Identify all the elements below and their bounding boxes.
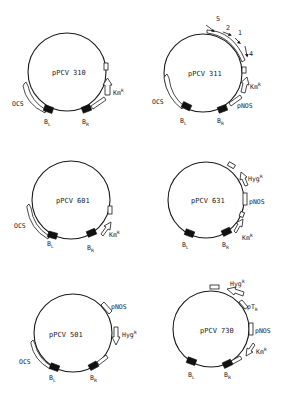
- plasmid-name: pPCV 311: [188, 70, 222, 78]
- pnos-promoter-box-icon: [243, 193, 247, 205]
- ocs-label: OCS: [12, 100, 24, 108]
- promoter-box-icon: [104, 63, 108, 70]
- kanamycin-resistance-arrow-icon: [241, 77, 249, 93]
- pnos-label: pNOS: [111, 303, 127, 311]
- kanamycin-resistance-arrow-icon: [234, 219, 243, 233]
- bl-label: BL: [44, 118, 51, 127]
- plasmid-name: pPCV 730: [200, 327, 234, 335]
- plasmid-pPCV601: pPCV 601 OCS BL BR KmR: [14, 161, 120, 253]
- br-label: BR: [82, 118, 89, 127]
- br-label: BR: [90, 374, 97, 383]
- plasmid-pPCV311: pPCV 311 5 2 1 4 OCS BL BR pNOS KmR: [152, 15, 261, 126]
- km-label: KmR: [113, 88, 124, 97]
- bl-label: BL: [188, 371, 195, 380]
- ocs-label: OCS: [19, 358, 31, 366]
- hyg-label: HygR: [230, 279, 245, 288]
- kanamycin-resistance-arrow-icon: [246, 343, 255, 356]
- kanamycin-resistance-arrow-icon: [103, 78, 112, 95]
- transcript-4-label: 4: [249, 50, 253, 58]
- border-left-icon: [181, 102, 192, 111]
- bl-label: BL: [49, 374, 56, 383]
- border-right-icon: [222, 359, 233, 368]
- ocs-label: OCS: [14, 222, 26, 230]
- km-label: KmR: [250, 82, 261, 91]
- transcript-5-label: 5: [216, 15, 220, 23]
- ocs-arc-icon: [23, 82, 46, 113]
- terminator-box-icon: [210, 285, 219, 289]
- terminator-box-icon: [91, 97, 106, 109]
- promoter-box-icon: [239, 211, 244, 217]
- plasmid-pPCV501: pPCV 501 pNOS HygR OCS BL BR: [19, 294, 137, 383]
- br-label: BR: [87, 244, 94, 253]
- km-label: KmR: [256, 347, 267, 356]
- hyg-label: HygR: [248, 174, 263, 183]
- pnos-label: pNOS: [237, 102, 253, 110]
- plasmid-name: pPCV 631: [191, 197, 225, 205]
- ocs-arc-icon: [164, 74, 184, 109]
- hyg-label: HygR: [122, 330, 137, 339]
- border-right-icon: [81, 104, 92, 113]
- hygromycin-resistance-arrow-icon: [240, 172, 248, 186]
- ocs-label: OCS: [152, 98, 164, 106]
- bl-label: BL: [180, 117, 187, 126]
- pnos-promoter-box-icon: [249, 323, 253, 335]
- km-label: KmR: [109, 230, 120, 239]
- border-left-icon: [47, 231, 57, 239]
- promoter-box-icon: [108, 206, 112, 214]
- br-label: BR: [222, 241, 229, 250]
- km-label: KmR: [242, 233, 253, 242]
- plasmid-pPCV631: pPCV 631 HygR pNOS KmR BL BR: [168, 162, 265, 250]
- br-label: BR: [224, 371, 231, 380]
- plasmid-name: pPCV 310: [52, 69, 86, 77]
- pnos-label: pNOS: [255, 327, 271, 335]
- pnos-label: pNOS: [249, 198, 265, 206]
- border-right-icon: [86, 228, 97, 237]
- plasmid-maps-figure: pPCV 310 OCS BL BR KmR pPCV 311 5 2 1 4: [0, 0, 284, 402]
- promoter-box-icon: [242, 67, 246, 73]
- plasmid-name: pPCV 501: [49, 331, 83, 339]
- hygromycin-resistance-arrow-icon: [112, 327, 120, 345]
- border-left-icon: [186, 357, 197, 366]
- border-left-icon: [184, 229, 195, 238]
- hygromycin-resistance-arrow-icon: [227, 287, 244, 296]
- bl-label: BL: [182, 241, 189, 250]
- terminator-box-icon: [227, 162, 235, 169]
- plasmid-pPCV310: pPCV 310 OCS BL BR KmR: [12, 33, 124, 127]
- border-right-icon: [217, 104, 228, 113]
- br-label: BR: [217, 117, 224, 126]
- plasmid-name: pPCV 601: [56, 197, 90, 205]
- border-right-icon: [221, 227, 232, 236]
- terminator-box-icon: [97, 355, 108, 365]
- transcript-1-label: 1: [238, 29, 242, 37]
- border-left-icon: [49, 363, 60, 372]
- transcript-2-label: 2: [226, 24, 230, 32]
- bl-label: BL: [47, 240, 54, 249]
- plasmid-pPCV730: pPCV 730 HygR pTR pNOS KmR BL BR: [173, 279, 271, 380]
- ptr-label: pTR: [247, 303, 258, 312]
